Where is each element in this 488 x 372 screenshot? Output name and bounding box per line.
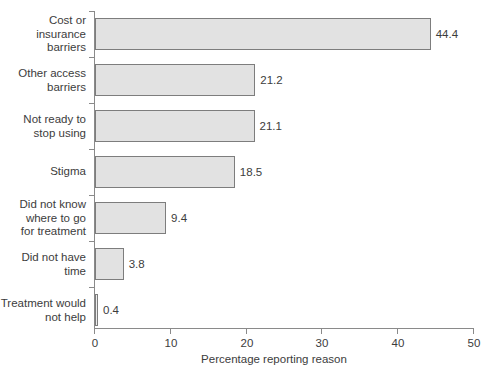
category-label: Not ready to stop using xyxy=(0,113,86,140)
y-axis-tick xyxy=(89,195,95,196)
category-label: Did not have time xyxy=(0,251,86,278)
bar-value-label: 44.4 xyxy=(436,28,458,41)
y-axis-tick xyxy=(89,241,95,242)
chart-row: Did not know where to go for treatment 9… xyxy=(0,195,488,241)
chart-row: Cost or insurance barriers 44.4 xyxy=(0,11,488,57)
x-axis-tick-label: 50 xyxy=(468,336,481,350)
y-axis-tick xyxy=(89,11,95,12)
category-label: Treatment would not help xyxy=(0,297,86,324)
bar-chart: Cost or insurance barriers 44.4 Other ac… xyxy=(0,0,488,372)
x-axis-title-text: Percentage reporting reason xyxy=(201,352,347,366)
x-axis-tick xyxy=(321,329,322,334)
chart-row: Other access barriers 21.2 xyxy=(0,57,488,103)
y-axis-tick xyxy=(89,149,95,150)
bar-value-label: 3.8 xyxy=(129,258,145,271)
category-label: Did not know where to go for treatment xyxy=(0,198,86,239)
x-axis-tick-label: 10 xyxy=(165,336,178,350)
y-axis-tick xyxy=(89,287,95,288)
bar-value-label: 21.1 xyxy=(260,120,282,133)
x-axis-tick xyxy=(170,329,171,334)
bar xyxy=(95,18,431,50)
x-axis-tick-label: 20 xyxy=(241,336,254,350)
bar xyxy=(95,202,166,234)
x-axis-tick-label: 0 xyxy=(92,336,98,350)
x-axis-tick xyxy=(94,329,95,334)
bar xyxy=(95,156,235,188)
y-axis-tick xyxy=(89,103,95,104)
chart-row: Stigma 18.5 xyxy=(0,149,488,195)
category-label: Cost or insurance barriers xyxy=(0,14,86,55)
y-axis-tick xyxy=(89,57,95,58)
category-label: Stigma xyxy=(0,165,86,179)
chart-row: Not ready to stop using 21.1 xyxy=(0,103,488,149)
bar xyxy=(95,294,98,326)
x-axis-title: Percentage reporting reason xyxy=(0,352,488,366)
chart-row: Treatment would not help 0.4 xyxy=(0,287,488,333)
chart-row: Did not have time 3.8 xyxy=(0,241,488,287)
bar-value-label: 0.4 xyxy=(103,304,119,317)
x-axis-tick-label: 30 xyxy=(316,336,329,350)
bar xyxy=(95,64,255,96)
bar-value-label: 9.4 xyxy=(171,212,187,225)
bar-value-label: 18.5 xyxy=(240,166,262,179)
category-label: Other access barriers xyxy=(0,67,86,94)
bar xyxy=(95,248,124,280)
bar xyxy=(95,110,255,142)
bar-value-label: 21.2 xyxy=(260,74,282,87)
x-axis-tick-label: 40 xyxy=(392,336,405,350)
x-axis-tick xyxy=(473,329,474,334)
x-axis-tick xyxy=(397,329,398,334)
x-axis-tick xyxy=(246,329,247,334)
